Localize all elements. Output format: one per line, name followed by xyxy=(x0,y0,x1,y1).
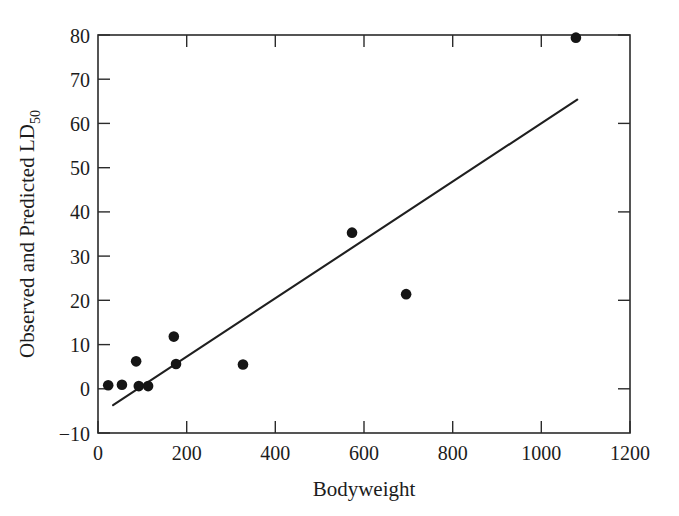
y-axis-ticks-right xyxy=(618,35,630,389)
plot-frame xyxy=(98,35,630,433)
data-point xyxy=(117,380,128,391)
x-tick-label: 1000 xyxy=(521,442,561,464)
data-point xyxy=(169,331,180,342)
regression-line xyxy=(113,100,577,406)
y-tick-label: 50 xyxy=(70,157,90,179)
data-point xyxy=(103,380,114,391)
x-tick-label: 600 xyxy=(349,442,379,464)
chart-figure: −10 0 10 20 30 40 50 60 70 80 0 200 400 … xyxy=(0,0,679,516)
data-point xyxy=(401,289,412,300)
y-tick-label: 0 xyxy=(80,378,90,400)
y-tick-label: −10 xyxy=(59,423,90,445)
y-tick-labels: −10 0 10 20 30 40 50 60 70 80 xyxy=(59,25,90,445)
x-tick-label: 800 xyxy=(438,442,468,464)
x-axis-title: Bodyweight xyxy=(313,477,416,501)
scatter-plot-svg: −10 0 10 20 30 40 50 60 70 80 0 200 400 … xyxy=(0,0,679,516)
data-points-group xyxy=(103,32,581,391)
y-tick-label: 80 xyxy=(70,25,90,47)
data-point xyxy=(171,359,182,370)
data-point xyxy=(238,359,249,370)
data-point xyxy=(571,32,582,43)
data-point xyxy=(133,381,144,392)
data-point xyxy=(143,381,154,392)
y-tick-label: 60 xyxy=(70,113,90,135)
y-tick-label: 40 xyxy=(70,201,90,223)
y-tick-label: 20 xyxy=(70,290,90,312)
y-tick-label: 30 xyxy=(70,246,90,268)
x-tick-labels: 0 200 400 600 800 1000 1200 xyxy=(93,442,650,464)
y-tick-label: 10 xyxy=(70,334,90,356)
y-axis-title-group: Observed and Predicted LD50 xyxy=(15,110,43,358)
x-axis-ticks xyxy=(98,421,630,433)
x-tick-label: 0 xyxy=(93,442,103,464)
data-point xyxy=(131,356,142,367)
y-axis-ticks xyxy=(98,35,110,433)
x-tick-label: 200 xyxy=(172,442,202,464)
y-tick-label: 70 xyxy=(70,69,90,91)
data-point xyxy=(347,227,358,238)
x-axis-ticks-top xyxy=(187,35,542,47)
y-axis-title-subscript: 50 xyxy=(28,110,43,124)
x-tick-label: 1200 xyxy=(610,442,650,464)
y-axis-title: Observed and Predicted LD50 xyxy=(15,110,43,358)
plot-border xyxy=(98,35,630,433)
regression-line-group xyxy=(113,100,577,406)
x-tick-label: 400 xyxy=(260,442,290,464)
y-axis-title-main: Observed and Predicted LD xyxy=(15,124,39,358)
